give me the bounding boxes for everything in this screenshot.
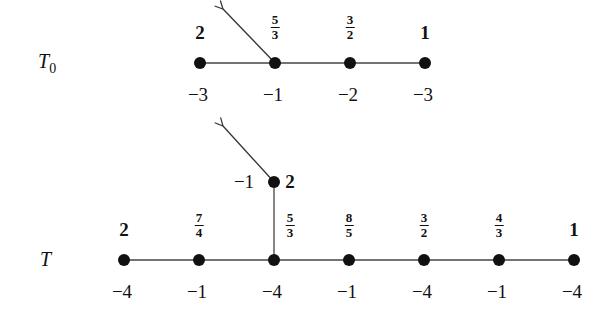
t-node-7-bottom: −4 [562,281,582,303]
t-node-1-top: 2 [119,219,129,241]
t0-node-2-top: 53 [271,14,280,41]
t-node-2-top: 74 [195,212,204,239]
t-branch-left-label: −1 [234,171,254,193]
t0-node-3-bottom: −2 [338,84,358,106]
t-node-5-top: 32 [420,212,429,239]
t0-node-2 [269,57,281,69]
t0-node-3-top: 32 [346,14,355,41]
t-node-3-top: 53 [286,212,295,239]
t-node-5-bottom: −4 [412,281,432,303]
t-branch-right-label: 2 [285,171,295,193]
t-node-3-bottom: −4 [262,281,282,303]
t-node-6-top: 43 [495,212,504,239]
t0-node-2-bottom: −1 [263,84,283,106]
t0-node-1 [194,57,206,69]
tree-diagram-lines [0,0,613,314]
t-node-6-bottom: −1 [487,281,507,303]
t0-node-1-bottom: −3 [188,84,208,106]
t0-node-4 [419,57,431,69]
t-node-7-top: 1 [569,219,579,241]
t0-node-4-bottom: −3 [413,84,433,106]
t-node-4-bottom: −1 [337,281,357,303]
tree-label-t0: T0 [38,50,56,77]
t0-node-4-top: 1 [420,22,430,44]
tree-label-t: T [40,248,51,271]
t0-node-1-top: 2 [195,22,205,44]
t-node-1-bottom: −4 [112,281,132,303]
t0-node-3 [344,57,356,69]
t-node-4-top: 85 [345,212,354,239]
t-branch-node [268,176,280,188]
t-node-2-bottom: −1 [187,281,207,303]
